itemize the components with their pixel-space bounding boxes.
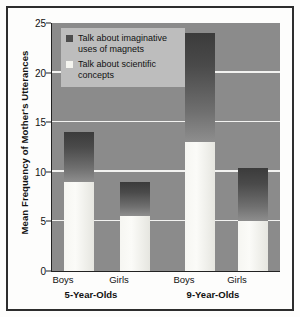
legend-entry-imaginative: Talk about imaginative uses of magnets [66,33,179,55]
bar-segment-imaginative [238,168,268,222]
bar-segment-scientific [64,182,94,271]
chart-legend: Talk about imaginative uses of magnets T… [61,28,185,87]
x-tick-label-9yo-boys: Boys [162,274,206,285]
legend-label-imaginative: Talk about imaginative uses of magnets [78,33,179,55]
x-tick-label-9yo-girls: Girls [215,274,259,285]
y-tick-label-25: 25 [35,18,46,29]
bar-segment-imaginative [64,132,94,182]
x-tick-label-5yo-boys: Boys [41,274,85,285]
x-group-label-5-year-olds: 5-Year-Olds [44,289,138,300]
bar-segment-imaginative [120,182,150,217]
y-axis-tick-labels: 25 20 15 10 5 0 [26,0,46,317]
bar-segment-imaginative [185,33,215,142]
legend-entry-scientific: Talk about scientific concepts [66,59,179,81]
y-tick-label-20: 20 [35,67,46,78]
bar-segment-scientific [185,142,215,271]
legend-swatch-icon-light [66,61,73,68]
x-group-label-9-year-olds: 9-Year-Olds [166,289,260,300]
y-tick-label-15: 15 [35,117,46,128]
gridline-15 [52,121,280,123]
legend-label-scientific: Talk about scientific concepts [78,59,179,81]
chart-figure: Mean Frequency of Mother's Utterances 25… [0,0,300,317]
bar-segment-scientific [120,216,150,271]
bar-segment-scientific [238,221,268,271]
legend-swatch-icon-dark [66,35,73,42]
x-tick-label-5yo-girls: Girls [97,274,141,285]
y-tick-label-10: 10 [35,166,46,177]
